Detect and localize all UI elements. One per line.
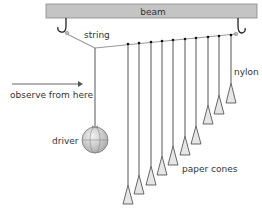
beam: beam bbox=[46, 4, 257, 18]
cone-pendulum bbox=[203, 36, 213, 124]
right-hook-icon bbox=[234, 18, 245, 36]
knot-icon bbox=[127, 43, 130, 46]
driver-label: driver bbox=[52, 136, 79, 146]
paper-cone-icon bbox=[180, 136, 190, 155]
knot-icon bbox=[184, 38, 187, 41]
paper-cones-label: paper cones bbox=[182, 164, 238, 174]
paper-cone-icon bbox=[134, 175, 144, 194]
nylon-label: nylon bbox=[234, 67, 259, 77]
paper-cone-icon bbox=[191, 126, 201, 144]
paper-cone-icon bbox=[203, 105, 213, 124]
cone-pendulum bbox=[180, 38, 190, 155]
knot-icon bbox=[207, 36, 210, 39]
nylon-line bbox=[95, 34, 236, 48]
observe-label: observe from here bbox=[10, 90, 93, 100]
cone-pendulum bbox=[123, 43, 133, 204]
knot-icon bbox=[150, 41, 153, 44]
knot-icon bbox=[230, 34, 233, 37]
cone-pendulum bbox=[191, 37, 201, 144]
barton-pendulums-diagram: beam string nylon driver observe from he… bbox=[0, 0, 262, 211]
knot-icon bbox=[138, 42, 141, 45]
cone-pendulum bbox=[146, 41, 156, 185]
paper-cone-icon bbox=[168, 146, 178, 165]
paper-cone-icon bbox=[226, 83, 236, 103]
cone-pendulum bbox=[157, 40, 167, 175]
cone-pendulum bbox=[214, 35, 224, 114]
knot-icon bbox=[218, 35, 221, 38]
paper-cone-pendulums bbox=[123, 34, 236, 204]
string-label: string bbox=[84, 30, 110, 40]
left-hook-icon bbox=[58, 18, 69, 35]
observe-arrow-icon bbox=[12, 81, 83, 87]
cone-pendulum bbox=[168, 39, 178, 165]
driver-pendulum bbox=[82, 48, 108, 153]
paper-cone-icon bbox=[146, 166, 156, 185]
knot-icon bbox=[195, 37, 198, 40]
cone-pendulum bbox=[134, 42, 144, 194]
knot-icon bbox=[172, 39, 175, 42]
beam-label: beam bbox=[140, 7, 166, 17]
knot-icon bbox=[161, 40, 164, 43]
paper-cone-icon bbox=[157, 156, 167, 175]
paper-cone-icon bbox=[214, 95, 224, 114]
paper-cone-icon bbox=[123, 185, 133, 204]
